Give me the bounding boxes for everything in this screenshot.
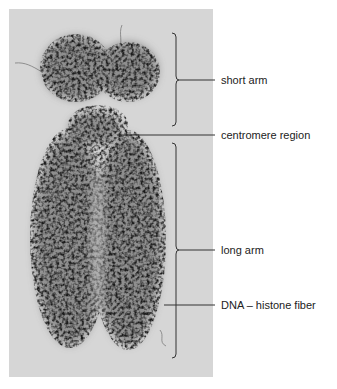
label-dna-histone-fiber: DNA – histone fiber — [221, 299, 316, 311]
chromosome-illustration — [0, 0, 337, 389]
label-centromere-region: centromere region — [221, 129, 310, 141]
long-arm-brace — [172, 143, 179, 358]
chromatid-groove — [91, 160, 105, 320]
label-short-arm: short arm — [221, 74, 267, 86]
label-long-arm: long arm — [221, 244, 264, 256]
chromosome-figure: short arm centromere region long arm DNA… — [0, 0, 337, 389]
short-arm-brace — [172, 33, 179, 126]
